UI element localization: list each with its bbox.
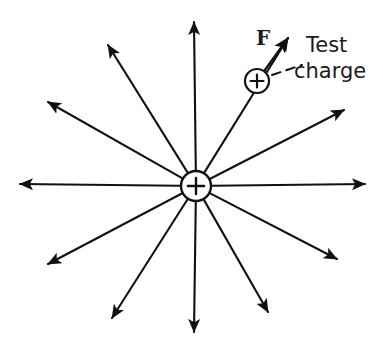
test-charge-label: Testcharge [306,34,366,82]
ray-down [194,202,196,332]
test-charge-symbol [245,69,269,93]
ray-up-left [48,102,182,178]
force-vector-label: F [256,28,270,50]
ray-up-right-steep [204,38,288,172]
test-charge-label-line1: Test [306,33,347,57]
ray-down-right-steep [204,200,268,312]
ray-left [20,184,180,186]
ray-down-left-steep [112,199,187,318]
ray-up-right [210,110,344,179]
test-charge-label-line2: charge [294,60,366,83]
electric-field-diagram: F Testcharge [0,0,383,353]
ray-up-left-steep [108,45,188,172]
ray-right [212,184,365,186]
source-point-charge [181,171,211,201]
ray-down-right [210,193,337,259]
ray-down-left [48,193,182,264]
ray-up [194,22,196,170]
